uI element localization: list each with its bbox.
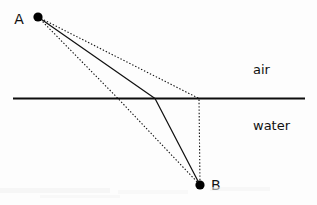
water-medium-label: water	[253, 118, 291, 133]
point-a-dot	[33, 12, 42, 21]
point-b-dot	[195, 180, 204, 189]
point-a-label: A	[14, 11, 24, 27]
diagram-canvas: A B air water	[0, 0, 317, 205]
refraction-diagram-figure: A B air water	[0, 0, 317, 205]
alternate-path-steep	[38, 17, 200, 185]
air-medium-label: air	[253, 62, 271, 77]
point-b-label: B	[211, 177, 221, 193]
